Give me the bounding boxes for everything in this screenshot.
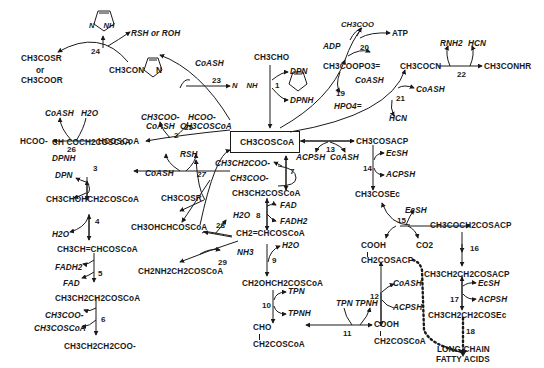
coash-23: CoASH [195,60,224,68]
acetyl-coa-2: CH3COSCoA [180,123,232,131]
acetyl-thioester: CH3COSR [161,195,202,203]
reaction-18: 18 [466,328,475,336]
coash-2: CoASH [146,123,175,131]
acetate-25: CH3COO- [141,114,179,122]
long-chain-label: LONG CHAIN [437,346,490,354]
reaction-19: 19 [336,90,345,98]
hcn-21: HCN [389,115,407,123]
ecsh-15: EcSH [405,207,427,215]
tpn-11: TPN [336,300,353,308]
hydroxypropionyl-coa-9: CH2OHCH2COSCoA [242,280,323,288]
reaction-28: 28 [216,222,225,230]
dpn-1: DPN [290,68,308,76]
adp: ADP [323,43,341,51]
reaction-9: 9 [272,257,276,265]
aminopropionyl-coa: CH2NH2CH2COSCoA [138,268,223,276]
coash-13: CoASH [330,154,359,162]
reaction-11: 11 [343,330,351,338]
acpsh-17: ACPSH [478,296,507,304]
acetamide: CH3CONHR [484,63,531,71]
reaction-14: 14 [363,165,372,173]
acetyl-cyanide: CH3COCN [400,63,441,71]
reaction-3: 3 [93,165,97,173]
reaction-21: 21 [396,95,405,103]
imidazole-top: N NH [89,22,115,30]
propionyl-coa: CH3CH2COSCoA [232,190,301,198]
cooh-malonyl-coa: COOH [374,321,399,329]
acetoacetyl-acp: CH3COCH2COSACP [430,222,511,230]
acetyl-coa-6: CH3COSCoA [34,325,86,333]
acetoacetyl-coa: CH COCH2COSCoA [52,139,131,147]
acetaldehyde: CH3CHO [254,54,289,62]
reaction-27: 27 [197,171,206,179]
rnh2: RNH2 [440,40,463,48]
reaction-17: 17 [450,296,459,304]
reaction-20: 20 [360,44,369,52]
coash-27: CoASH [145,170,174,178]
propionate: CH3CH2COO- [215,160,270,168]
fad-8: FAD [280,202,297,210]
tpnh-11: TPNH [355,300,378,308]
acpsh-12: ACPSH [393,304,422,312]
butyryl-acp: CH3CH2CH2COSACP [424,271,510,279]
fadh2-5: FADH2 [55,264,82,272]
dpnh-3: DPNH [52,155,76,163]
fad-5: FAD [63,280,80,288]
reaction-1: 1 [275,82,279,90]
atp: ATP [392,30,408,38]
ch3coor: CH3COOR [21,77,63,85]
fadh2-8: FADH2 [280,218,307,226]
dpn-3: DPN [55,172,73,180]
acpsh-14: ACPSH [386,171,415,179]
crotonyl-coa: CH3CH=CHCOSCoA [57,246,138,254]
metabolic-pathway-diagram: CH3COSCoA N NH RSH or ROH 24 CH3COSR or … [0,0,544,368]
fatty-acids-label: FATTY ACIDS [436,356,490,364]
imidazole-23: N NH [232,82,258,90]
malonsemialdehyde-coa: CH2COSCoA [253,341,305,349]
reaction-10: 10 [262,302,271,310]
reaction-29: 29 [218,259,227,267]
imidazole-n: N [156,67,162,75]
acetyl-coa-label: CH3COSCoA [240,138,294,147]
reaction-5: 5 [98,270,102,278]
hcn-22: HCN [468,40,486,48]
rsh-or-roh: RSH or ROH [131,30,180,38]
coash-21: CoASH [416,86,445,94]
hydroxypropionyl-coa-28: CH3OHCHCOSCoA [131,224,207,232]
acetyl-phosphate: CH3COOPO3= [323,63,380,71]
cho-group: CHO [253,324,272,332]
co2-15: CO2 [416,242,433,250]
butyryl-coa: CH3CH2CH2COSCoA [55,295,140,303]
acetate-7: CH3COO- [230,175,268,183]
malonyl-acp: CH2COSACP [361,257,413,265]
acetate-6: CH3COO- [45,312,83,320]
hpo4-19: HPO4= [334,103,362,111]
nh3-29: NH3 [237,249,254,257]
h2o-9: H2O [282,242,299,250]
coash-12: CoASH [393,280,422,288]
reaction-7: 7 [290,168,294,176]
acetyl-imidazole: CH3CON [109,67,144,75]
butyryl-enzyme: CH3CH2CH2COSEc [428,312,506,320]
or-label: or [36,67,44,75]
acpsh-13: ACPSH [296,154,325,162]
reaction-22: 22 [457,71,466,79]
formate-25: HCOO- [188,114,216,122]
acetyl-acp: CH3COSACP [356,138,408,146]
butyrate: CH3CH2CH2COO- [64,343,136,351]
reaction-2: 2 [174,132,178,140]
h2o-4: H2O [52,231,69,239]
coash-19: CoASH [355,77,384,85]
rsh-27: RSH [180,151,198,159]
hydroxybutyryl-coa: CH3CHOHCH2COSCoA [46,196,139,204]
h2o-26: H2O [81,110,98,118]
h2o-28: H2O [233,212,250,220]
reaction-24: 24 [91,48,100,56]
reaction-23: 23 [212,77,221,85]
formate-26: HCOO- [20,138,48,146]
acrylyl-coa: CH2=CHCOSCoA [236,230,305,238]
reaction-16: 16 [470,245,479,253]
coash-26: CoASH [45,110,74,118]
reaction-4: 4 [95,218,99,226]
malonyl-coa: CH2COSCoA [374,338,426,346]
